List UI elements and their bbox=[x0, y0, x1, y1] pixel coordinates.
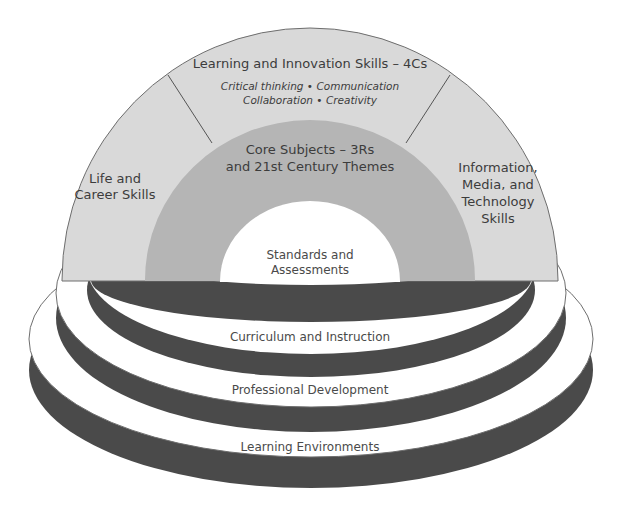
core-subjects-line2: and 21st Century Themes bbox=[0, 159, 620, 175]
professional-development-label: Professional Development bbox=[0, 383, 620, 397]
learning-innovation-title: Learning and Innovation Skills – 4Cs bbox=[0, 56, 620, 72]
standards-assessments-line1: Standards and bbox=[0, 248, 620, 262]
learning-innovation-sub1: Critical thinking • Communication bbox=[0, 80, 620, 93]
curriculum-instruction-label: Curriculum and Instruction bbox=[0, 330, 620, 344]
core-subjects-line1: Core Subjects – 3Rs bbox=[0, 142, 620, 158]
info-media-tech-line2: Media, and bbox=[448, 177, 548, 193]
info-media-tech-line3: Technology bbox=[448, 194, 548, 210]
learning-environments-label: Learning Environments bbox=[0, 440, 620, 454]
life-career-label-line2: Career Skills bbox=[60, 187, 170, 203]
standards-assessments-line2: Assessments bbox=[0, 263, 620, 277]
learning-innovation-sub2: Collaboration • Creativity bbox=[0, 94, 620, 107]
info-media-tech-line4: Skills bbox=[448, 211, 548, 227]
